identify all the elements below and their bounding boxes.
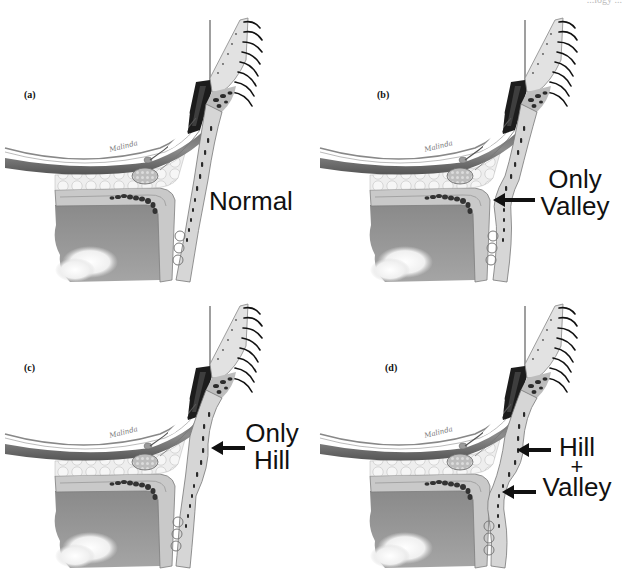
arrow-left-icon xyxy=(502,485,536,499)
arrow-left-icon xyxy=(493,193,535,207)
caption-normal: Normal xyxy=(206,188,296,215)
panel-c: (c) Only Hill xyxy=(0,286,315,572)
caption-line: Only xyxy=(244,420,300,447)
caption-line: Normal xyxy=(206,188,296,215)
caption-line: Valley xyxy=(541,476,613,498)
panel-label-a: (a) xyxy=(24,89,36,100)
panel-label-c: (c) xyxy=(24,362,35,373)
caption-line: Hill xyxy=(244,447,300,474)
caption-only-hill: Only Hill xyxy=(244,420,300,474)
arrow-hill xyxy=(211,441,245,455)
panel-d: (d) Hill + Valley xyxy=(315,286,630,572)
eyelid-illustration-only-valley xyxy=(315,0,630,286)
figure-eyelid-contour-variants: ...logy ... xyxy=(0,0,630,572)
arrow-valley xyxy=(493,193,535,207)
panel-b: (b) Only Valley xyxy=(315,0,630,286)
eyelid-illustration-hill-valley xyxy=(315,286,630,572)
caption-hill-plus-valley: Hill + Valley xyxy=(541,436,613,498)
caption-line: Only xyxy=(537,166,613,193)
caption-line: Valley xyxy=(537,193,613,220)
arrow-valley xyxy=(502,485,536,499)
panel-a: (a) Normal xyxy=(0,0,315,286)
arrow-left-icon xyxy=(211,441,245,455)
caption-only-valley: Only Valley xyxy=(537,166,613,220)
panel-label-d: (d) xyxy=(385,362,397,373)
panel-label-b: (b) xyxy=(377,89,389,100)
eyelid-illustration-normal xyxy=(0,0,315,286)
